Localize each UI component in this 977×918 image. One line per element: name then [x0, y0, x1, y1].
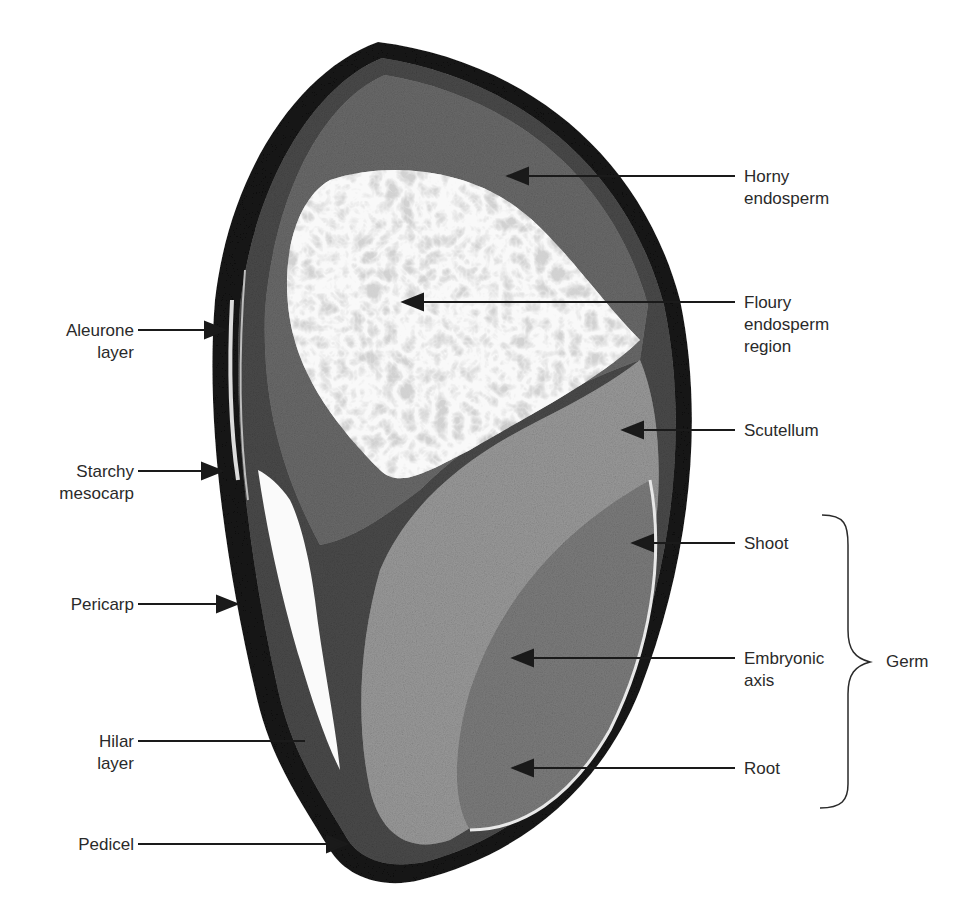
label-floury-endosperm-region: Floury endosperm region: [744, 292, 829, 358]
label-aleurone-layer: Aleurone layer: [66, 320, 134, 364]
label-germ: Germ: [886, 651, 929, 673]
label-hilar-layer: Hilar layer: [97, 731, 134, 775]
label-embryonic-axis: Embryonic axis: [744, 648, 824, 692]
label-horny-endosperm: Horny endosperm: [744, 166, 829, 210]
label-shoot: Shoot: [744, 533, 788, 555]
label-root: Root: [744, 758, 780, 780]
label-starchy-mesocarp: Starchy mesocarp: [59, 461, 134, 505]
label-pericarp: Pericarp: [71, 594, 134, 616]
germ-brace: [820, 515, 870, 808]
label-scutellum: Scutellum: [744, 420, 819, 442]
label-pedicel: Pedicel: [78, 834, 134, 856]
kernel-illustration: [0, 0, 977, 918]
kernel-diagram: Aleurone layer Starchy mesocarp Pericarp…: [0, 0, 977, 918]
